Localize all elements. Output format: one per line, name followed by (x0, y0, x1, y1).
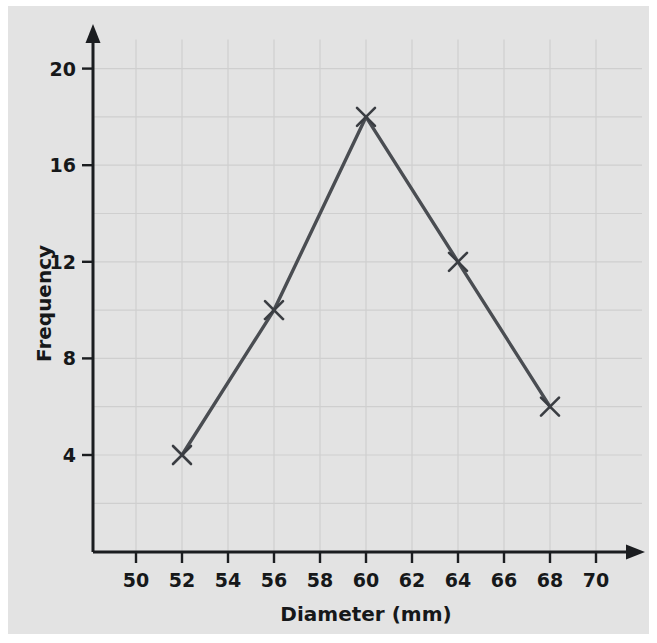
data-point-marker (357, 108, 375, 126)
data-point-marker (449, 253, 467, 271)
data-point-marker (173, 446, 191, 464)
x-tick-label: 62 (399, 571, 425, 590)
frequency-polygon-line (182, 117, 550, 455)
x-tick-label: 64 (445, 571, 471, 590)
x-tick-label: 50 (123, 571, 149, 590)
x-tick-label: 52 (169, 571, 195, 590)
x-tick-label: 60 (353, 571, 379, 590)
data-point-marker (265, 301, 283, 319)
x-tick-label: 70 (583, 571, 609, 590)
data-point-marker (541, 398, 559, 416)
x-tick-label: 58 (307, 571, 333, 590)
y-axis-title: Frequency (32, 245, 56, 362)
y-tick-label: 4 (63, 446, 76, 465)
y-tick-label: 16 (50, 156, 76, 175)
plot-surface: 5052545658606264666870 48121620 Diameter… (8, 6, 649, 634)
y-tick-label: 20 (50, 59, 76, 78)
data-point-markers (173, 108, 559, 464)
x-tick-label: 68 (537, 571, 563, 590)
x-axis-title: Diameter (mm) (280, 602, 451, 626)
chart-page: 5052545658606264666870 48121620 Diameter… (0, 0, 657, 643)
x-tick-label: 56 (261, 571, 287, 590)
x-tick-label: 54 (215, 571, 241, 590)
x-tick-label: 66 (491, 571, 517, 590)
data-layer (8, 6, 649, 634)
y-tick-label: 8 (63, 349, 76, 368)
